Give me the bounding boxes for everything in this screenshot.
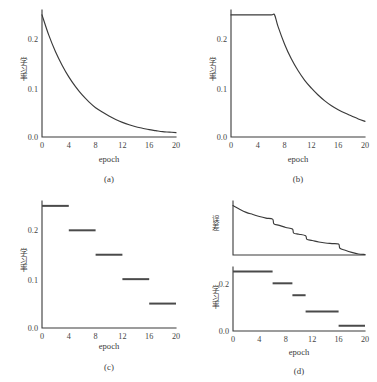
panel-a-axes xyxy=(42,10,176,137)
panel-a-plot: 0.0 0.1 0.2 0 4 8 12 16 20 epoch (a) xyxy=(0,0,188,191)
panel-b-xtick-16: 16 xyxy=(334,141,342,150)
panel-c-xtick-20: 20 xyxy=(172,332,180,341)
panel-d-xtick-0: 0 xyxy=(231,335,235,344)
panel-d-bottom-axes xyxy=(233,267,365,331)
figure-grid: 0.0 0.1 0.2 0 4 8 12 16 20 epoch (a) 学习率… xyxy=(0,0,377,382)
panel-a-curve xyxy=(42,15,176,133)
panel-c-steps xyxy=(42,206,176,304)
panel-d-xlabel: epoch xyxy=(289,347,310,357)
panel-b: 0.0 0.1 0.2 0 4 8 12 16 20 epoch (b) 学习率 xyxy=(189,0,377,191)
panel-a: 0.0 0.1 0.2 0 4 8 12 16 20 epoch (a) 学习率 xyxy=(0,0,188,191)
panel-a-xtick-0: 0 xyxy=(40,141,44,150)
panel-a-xlabel: epoch xyxy=(99,154,120,164)
panel-a-xtick-20: 20 xyxy=(172,141,180,150)
panel-c-caption: (c) xyxy=(104,362,114,372)
panel-b-axes xyxy=(231,10,365,137)
panel-d-bottom-ylabel: 学习率 xyxy=(210,286,221,311)
panel-d-xtick-12: 12 xyxy=(308,335,316,344)
panel-a-ylabel: 学习率 xyxy=(18,58,29,83)
panel-d-xtick-8: 8 xyxy=(284,335,288,344)
panel-b-ytick-1: 0.1 xyxy=(217,85,227,94)
panel-c-ylabel-text: 学习率 xyxy=(18,249,29,274)
panel-b-ytick-0: 0.0 xyxy=(217,133,227,142)
panel-c-xlabel: epoch xyxy=(99,341,120,351)
panel-b-xtick-20: 20 xyxy=(361,141,369,150)
panel-a-ytick-1: 0.1 xyxy=(28,85,38,94)
panel-b-caption: (b) xyxy=(293,174,303,184)
panel-a-xtick-12: 12 xyxy=(118,141,126,150)
panel-a-ytick-2: 0.2 xyxy=(28,35,38,44)
panel-c-axes xyxy=(42,201,176,328)
panel-d-xtick-16: 16 xyxy=(335,335,343,344)
panel-a-xtick-8: 8 xyxy=(94,141,98,150)
panel-d-top-ylabel: 误差 xyxy=(210,216,221,232)
panel-a-caption: (a) xyxy=(104,174,114,184)
panel-d-caption: (d) xyxy=(294,366,304,376)
panel-a-xtick-16: 16 xyxy=(145,141,153,150)
panel-b-xtick-0: 0 xyxy=(229,141,233,150)
panel-c-ytick-0: 0.0 xyxy=(28,324,38,333)
panel-c-plot: 0.0 0.1 0.2 0 4 8 12 16 20 epoch (c) xyxy=(0,191,188,382)
panel-b-ylabel-text: 学习率 xyxy=(207,58,218,83)
panel-d-bottom-ylabel-text: 学习率 xyxy=(210,286,221,311)
panel-c-xtick-12: 12 xyxy=(118,332,126,341)
panel-d: 0.0 0.2 0 4 8 12 16 20 epoch (d) 误差 学习率 xyxy=(189,191,377,382)
panel-d-top-axes xyxy=(233,201,365,255)
panel-c-xtick-16: 16 xyxy=(145,332,153,341)
panel-c-xtick-4: 4 xyxy=(67,332,71,341)
panel-b-xtick-8: 8 xyxy=(283,141,287,150)
panel-d-xtick-4: 4 xyxy=(257,335,261,344)
panel-b-ylabel: 学习率 xyxy=(207,58,218,83)
panel-d-top-ylabel-text: 误差 xyxy=(210,216,221,232)
panel-c: 0.0 0.1 0.2 0 4 8 12 16 20 epoch (c) 学习率 xyxy=(0,191,188,382)
panel-c-ylabel: 学习率 xyxy=(18,249,29,274)
panel-b-plot: 0.0 0.1 0.2 0 4 8 12 16 20 epoch (b) xyxy=(189,0,377,191)
panel-b-xtick-4: 4 xyxy=(256,141,260,150)
panel-b-ytick-2: 0.2 xyxy=(217,35,227,44)
panel-b-xlabel: epoch xyxy=(288,154,309,164)
panel-c-xtick-8: 8 xyxy=(94,332,98,341)
panel-d-xtick-20: 20 xyxy=(361,335,369,344)
panel-c-ytick-2: 0.2 xyxy=(28,226,38,235)
panel-a-ytick-0: 0.0 xyxy=(28,133,38,142)
panel-b-curve xyxy=(231,14,365,121)
panel-d-steps xyxy=(233,271,365,325)
panel-d-error-curve xyxy=(233,206,365,255)
panel-a-ylabel-text: 学习率 xyxy=(18,58,29,83)
panel-c-xtick-0: 0 xyxy=(40,332,44,341)
panel-a-xtick-4: 4 xyxy=(67,141,71,150)
panel-c-ytick-1: 0.1 xyxy=(28,276,38,285)
panel-d-ytick-0: 0.0 xyxy=(219,327,229,336)
panel-b-xtick-12: 12 xyxy=(307,141,315,150)
